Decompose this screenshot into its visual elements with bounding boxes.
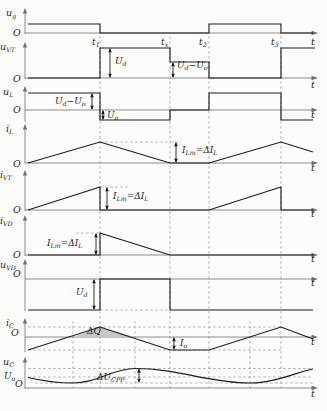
measure-arrow-icon bbox=[101, 110, 105, 114]
origin-label: O bbox=[13, 249, 21, 260]
measure-arrow-icon bbox=[108, 48, 112, 52]
svg-text:Uo: Uo bbox=[4, 371, 16, 382]
time-tick-label: t3 bbox=[271, 37, 279, 48]
measure-arrow-icon bbox=[90, 106, 94, 110]
panel-i_VD: ILm=ΔILiVDOt bbox=[0, 215, 318, 264]
t-axis-label: t bbox=[311, 109, 315, 120]
y-axis-label: iVT bbox=[0, 169, 13, 181]
measure-arrow-icon bbox=[174, 142, 178, 146]
y-axis-label: iVD bbox=[0, 215, 13, 227]
origin-label: O bbox=[13, 268, 21, 279]
y-axis-label: uVT bbox=[0, 41, 16, 53]
y-axis-arrow-icon bbox=[23, 318, 27, 324]
panel-u_C: UoΔUCPPuCOt bbox=[3, 356, 318, 399]
origin-label: O bbox=[13, 27, 21, 38]
measure-arrow-icon bbox=[92, 306, 96, 310]
svg-text:Ud−Uo: Ud−Uo bbox=[55, 96, 86, 107]
y-axis-arrow-icon bbox=[23, 170, 27, 176]
t-axis-label: t bbox=[311, 36, 315, 47]
waveform-chart: ugOtUdUd−UouVTOtUd−UoUouLOtILm=ΔILiLOtIL… bbox=[0, 0, 327, 411]
origin-label: O bbox=[13, 104, 21, 115]
t-axis-label: t bbox=[311, 388, 315, 399]
y-axis-label: iL bbox=[6, 123, 13, 135]
measure-arrow-icon bbox=[90, 93, 94, 97]
t-axis-label: t bbox=[311, 336, 315, 347]
measure-arrow-icon bbox=[174, 159, 178, 163]
measure-arrow-icon bbox=[101, 116, 105, 120]
y-axis-arrow-icon bbox=[23, 124, 27, 130]
svg-text:ILm=ΔIL: ILm=ΔIL bbox=[46, 238, 83, 249]
y-axis-label: uC bbox=[3, 356, 14, 368]
time-tick-label: t2 bbox=[199, 37, 207, 48]
waveform-trace bbox=[28, 369, 313, 384]
y-axis-arrow-icon bbox=[23, 8, 27, 14]
svg-text:Ud: Ud bbox=[115, 56, 127, 67]
t-axis-label: t bbox=[311, 277, 315, 288]
measure-arrow-icon bbox=[105, 187, 109, 191]
svg-text:ΔQ: ΔQ bbox=[86, 326, 102, 336]
panel-i_L: ILm=ΔILiLOt bbox=[6, 123, 318, 173]
waveform-trace bbox=[28, 142, 313, 163]
time-tick-label: t1 bbox=[92, 37, 100, 48]
measure-arrow-icon bbox=[94, 233, 98, 237]
panel-i_VT: ILm=ΔILiVTOt bbox=[0, 169, 318, 219]
measure-arrow-icon bbox=[172, 346, 176, 350]
waveform-trace bbox=[28, 187, 313, 210]
y-axis-arrow-icon bbox=[23, 86, 27, 92]
y-axis-label: ug bbox=[6, 7, 16, 20]
measure-arrow-icon bbox=[171, 74, 175, 78]
measure-arrow-icon bbox=[94, 251, 98, 255]
svg-text:ΔUCPP: ΔUCPP bbox=[96, 372, 125, 383]
origin-label: O bbox=[13, 204, 21, 215]
svg-text:Io: Io bbox=[179, 338, 188, 349]
y-axis-arrow-icon bbox=[23, 357, 27, 363]
svg-text:ILm=ΔIL: ILm=ΔIL bbox=[112, 191, 149, 202]
y-axis-label: uL bbox=[3, 86, 13, 98]
panel-u_VT: UdUd−UouVTOt bbox=[0, 41, 318, 90]
y-axis-arrow-icon bbox=[23, 259, 27, 265]
waveform-trace bbox=[28, 24, 313, 33]
origin-label: O bbox=[15, 378, 23, 389]
t-axis-label: t bbox=[311, 208, 315, 219]
t-axis-label: t bbox=[311, 253, 315, 264]
svg-text:Ud−Uo: Ud−Uo bbox=[177, 60, 208, 71]
waveform-figure: ugOtUdUd−UouVTOtUd−UoUouLOtILm=ΔILiLOtIL… bbox=[0, 0, 327, 411]
t-axis-label: t bbox=[311, 79, 315, 90]
svg-text:Ud: Ud bbox=[76, 287, 88, 298]
svg-text:ILm=ΔIL: ILm=ΔIL bbox=[181, 145, 218, 156]
waveform-trace bbox=[28, 327, 313, 350]
panel-u_L: Ud−UoUouLOt bbox=[3, 86, 318, 122]
origin-label: O bbox=[11, 327, 19, 338]
waveform-trace bbox=[28, 48, 315, 78]
y-axis-arrow-icon bbox=[23, 215, 27, 221]
measure-arrow-icon bbox=[172, 337, 176, 341]
measure-arrow-icon bbox=[92, 279, 96, 283]
panel-i_C: ΔQIoiCOt bbox=[6, 317, 318, 352]
origin-label: O bbox=[13, 73, 21, 84]
measure-arrow-icon bbox=[171, 62, 175, 66]
svg-text:Uo: Uo bbox=[107, 110, 119, 121]
origin-label: O bbox=[13, 158, 21, 169]
measure-arrow-icon bbox=[108, 74, 112, 78]
measure-arrow-icon bbox=[137, 379, 141, 383]
waveform-trace bbox=[28, 279, 313, 310]
t-axis-label: t bbox=[311, 162, 315, 173]
measure-arrow-icon bbox=[105, 206, 109, 210]
panel-u_VD: UduVDOt bbox=[0, 259, 318, 311]
y-axis-arrow-icon bbox=[23, 42, 27, 48]
time-tick-label: tx bbox=[161, 37, 169, 48]
